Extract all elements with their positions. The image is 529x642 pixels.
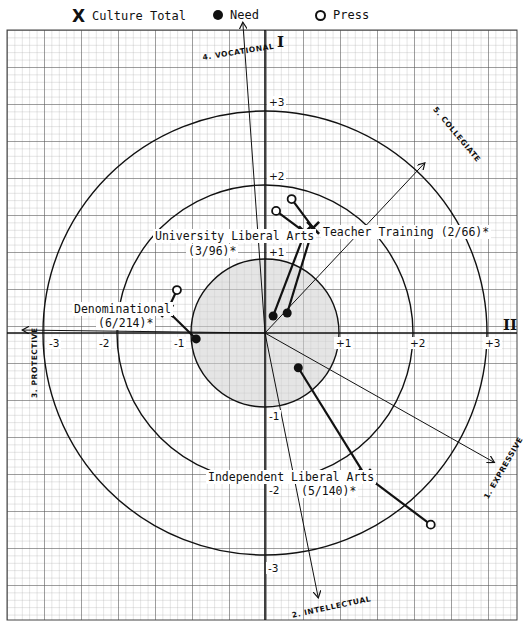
tick-y-plus-2: +2: [267, 170, 286, 182]
label-university-liberal-arts: University Liberal Arts: [153, 229, 316, 243]
axis-label-protective: 3. PROTECTIVE: [30, 327, 39, 398]
label-teacher-training: Teacher Training (2/66)*: [321, 225, 491, 239]
press-point: [288, 195, 296, 203]
press-point: [173, 286, 181, 294]
tick-x-minus-3: -3: [47, 337, 61, 349]
tick-y-plus-3: +3: [267, 96, 286, 108]
quadrant-label-ii: II: [503, 316, 517, 334]
tick-y-minus-2: -2: [267, 484, 281, 496]
quadrant-label-i: I: [277, 33, 284, 51]
label-university-liberal-arts-count: (3/96)*: [186, 244, 238, 258]
tick-x-minus-1: -1: [172, 337, 186, 349]
chart-plot-area: [0, 0, 529, 642]
tick-x-plus-2: +2: [408, 337, 427, 349]
tick-x-plus-3: +3: [483, 337, 502, 349]
press-point: [427, 521, 435, 529]
tick-y-minus-3: -3: [266, 562, 280, 574]
tick-x-plus-1: +1: [334, 337, 353, 349]
need-point: [283, 309, 292, 318]
tick-y-plus-1: +1: [267, 246, 286, 258]
press-point: [272, 207, 280, 215]
need-point: [269, 311, 278, 320]
label-denominational-count: (6/214)*: [96, 316, 155, 330]
tick-x-minus-2: -2: [97, 337, 111, 349]
tick-y-minus-1: -1: [267, 410, 281, 422]
label-independent-liberal-arts-count: (5/140)*: [299, 484, 358, 498]
need-point: [294, 363, 303, 372]
label-independent-liberal-arts: Independent Liberal Arts: [206, 470, 376, 484]
need-point: [192, 334, 201, 343]
label-denominational: Denominational: [72, 302, 173, 316]
